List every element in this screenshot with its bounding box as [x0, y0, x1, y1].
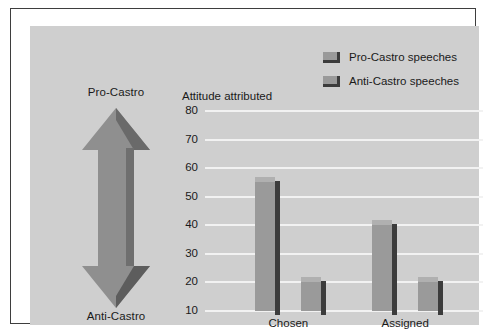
y-axis-tick-label: 20 [185, 275, 198, 287]
bar-front-face [255, 181, 275, 311]
scale-bottom-label: Anti-Castro [56, 310, 176, 322]
x-axis-category-label: Chosen [238, 317, 338, 329]
gridline: 50 [205, 196, 483, 198]
plot-background: Pro-Castro Anti-Castro [30, 26, 479, 325]
plot-area: 8070605040302010ChosenAssigned [205, 111, 483, 311]
bar [301, 277, 321, 311]
legend-item-pro-castro: Pro-Castro speeches [323, 46, 488, 68]
gridline: 80 [205, 110, 483, 112]
bar [255, 177, 275, 311]
y-axis-tick-label: 60 [185, 161, 198, 173]
bar-side-face [392, 224, 397, 315]
gridline: 60 [205, 167, 483, 169]
bar-front-face [418, 281, 438, 311]
legend-swatch-icon [323, 52, 340, 63]
bar-side-face [438, 281, 443, 315]
bar-group [372, 111, 438, 311]
y-axis-tick-label: 80 [185, 104, 198, 116]
gridline: 70 [205, 139, 483, 141]
bar-top-face [255, 177, 275, 182]
y-axis-tick-label: 50 [185, 190, 198, 202]
legend-swatch-icon [323, 76, 340, 87]
bar [418, 277, 438, 311]
double-headed-arrow-icon [76, 106, 156, 310]
figure-container: Pro-Castro Anti-Castro [0, 0, 488, 334]
legend-label: Anti-Castro speeches [349, 75, 459, 87]
legend: Pro-Castro speeches Anti-Castro speeches [323, 46, 488, 94]
bar-front-face [301, 281, 321, 311]
y-axis-tick-label: 10 [185, 304, 198, 316]
gridline: 40 [205, 224, 483, 226]
bar-top-face [301, 277, 321, 282]
gridline: 30 [205, 253, 483, 255]
bar-side-face [321, 281, 326, 315]
bar-group [255, 111, 321, 311]
x-axis-category-label: Assigned [355, 317, 455, 329]
legend-item-anti-castro: Anti-Castro speeches [323, 70, 488, 92]
figure-border: Pro-Castro Anti-Castro [10, 8, 476, 324]
bar-top-face [418, 277, 438, 282]
legend-label: Pro-Castro speeches [349, 51, 457, 63]
scale-top-label: Pro-Castro [56, 86, 176, 98]
y-axis-tick-label: 30 [185, 247, 198, 259]
y-axis-tick-label: 70 [185, 133, 198, 145]
y-axis-tick-label: 40 [185, 218, 198, 230]
bar-top-face [372, 220, 392, 225]
bar-side-face [275, 181, 280, 315]
bipolar-scale: Pro-Castro Anti-Castro [56, 86, 176, 326]
bar-front-face [372, 224, 392, 311]
bar [372, 220, 392, 311]
y-axis-title: Attitude attributed [182, 90, 272, 102]
